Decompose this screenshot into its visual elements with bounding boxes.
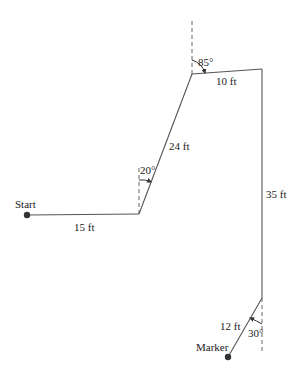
- angle-label-30: 30°: [248, 328, 263, 339]
- start-label: Start: [15, 199, 36, 210]
- path-diagram: Start Marker 15 ft 24 ft 10 ft 35 ft 12 …: [0, 0, 302, 380]
- start-dot: [24, 212, 30, 218]
- segment-label-12ft: 12 ft: [220, 321, 240, 332]
- angle-arc-20: [139, 180, 151, 182]
- marker-label: Marker: [196, 342, 228, 353]
- segment-10ft: [192, 69, 262, 74]
- segment-label-24ft: 24 ft: [169, 141, 189, 152]
- segment-label-35ft: 35 ft: [266, 189, 286, 200]
- angle-arc-30: [250, 318, 262, 324]
- segment-15ft: [27, 214, 139, 215]
- marker-dot: [225, 354, 231, 360]
- segment-label-15ft: 15 ft: [74, 222, 94, 233]
- segment-label-10ft: 10 ft: [216, 76, 236, 87]
- angle-label-85: 85°: [198, 57, 213, 68]
- diagram-canvas: [0, 0, 302, 380]
- angle-label-20: 20°: [140, 165, 155, 176]
